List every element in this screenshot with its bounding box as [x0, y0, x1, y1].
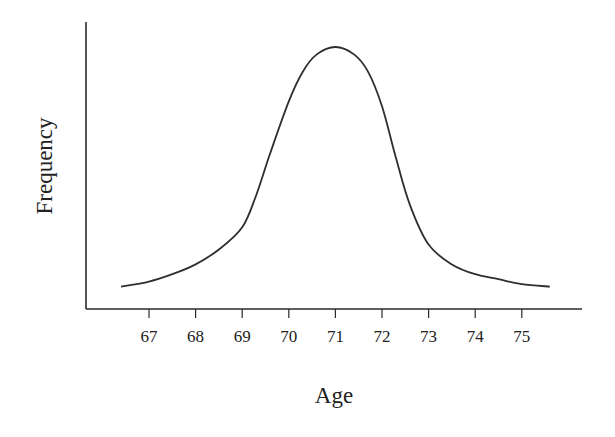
y-axis-title: Frequency [32, 117, 57, 215]
x-tick-label: 75 [513, 327, 530, 346]
x-tick-label: 72 [374, 327, 391, 346]
x-ticks: 676869707172737475 [141, 309, 531, 346]
x-tick-label: 69 [234, 327, 251, 346]
x-tick-label: 74 [467, 327, 485, 346]
x-tick-label: 70 [280, 327, 297, 346]
x-tick-label: 68 [187, 327, 204, 346]
x-axis: 676869707172737475 [86, 309, 582, 346]
frequency-curve [121, 47, 550, 287]
x-axis-title: Age [315, 383, 353, 408]
x-tick-label: 71 [327, 327, 344, 346]
x-tick-label: 67 [141, 327, 159, 346]
chart: 676869707172737475 Age Frequency [0, 0, 615, 437]
x-tick-label: 73 [420, 327, 437, 346]
